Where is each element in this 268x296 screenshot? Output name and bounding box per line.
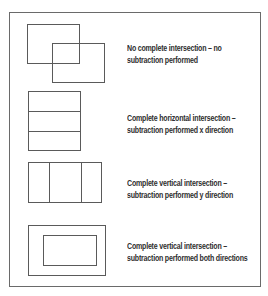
- caption-line: Complete horizontal intersection –: [127, 112, 236, 124]
- outer-rectangle: [29, 163, 102, 203]
- caption-line: subtraction performed: [127, 54, 222, 66]
- caption-line: Complete vertical intersection –: [127, 240, 247, 252]
- caption-line: subtraction performed y direction: [127, 189, 233, 201]
- outer-rectangle: [29, 92, 81, 151]
- horizontal-intersection-figure: [29, 92, 81, 151]
- caption-vertical-intersection: Complete vertical intersection – subtrac…: [127, 177, 233, 201]
- inner-rectangle: [44, 236, 97, 266]
- outer-rectangle: [29, 226, 106, 276]
- caption-line: subtraction performed both directions: [127, 252, 247, 264]
- no-intersection-figure: [28, 25, 105, 83]
- caption-both-directions: Complete vertical intersection – subtrac…: [127, 240, 247, 264]
- caption-line: Complete vertical intersection –: [127, 177, 233, 189]
- caption-no-intersection: No complete intersection – no subtractio…: [127, 42, 222, 66]
- vertical-intersection-figure: [29, 163, 102, 203]
- caption-horizontal-intersection: Complete horizontal intersection – subtr…: [127, 112, 236, 136]
- both-directions-figure: [29, 226, 106, 276]
- caption-line: subtraction performed x direction: [127, 124, 236, 136]
- caption-line: No complete intersection – no: [127, 42, 222, 54]
